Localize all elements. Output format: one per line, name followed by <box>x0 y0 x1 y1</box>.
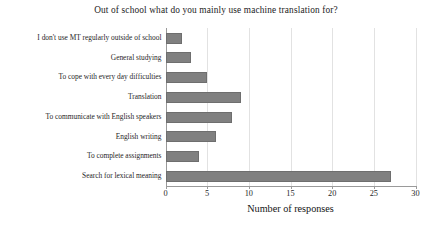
category-label: General studying <box>5 53 166 62</box>
category-label: To communicate with English speakers <box>5 112 166 121</box>
category-label: To cope with every day difficulties <box>5 72 166 81</box>
category-label: I don't use MT regularly outside of scho… <box>5 33 166 42</box>
category-label: English writing <box>5 132 166 141</box>
category-label: Search for lexical meaning <box>5 171 166 180</box>
bar-row <box>166 87 416 107</box>
bar <box>166 72 208 83</box>
x-tick-label: 15 <box>286 189 294 198</box>
bar-row <box>166 68 416 88</box>
bar-row <box>166 147 416 167</box>
bar-row <box>166 107 416 127</box>
bar <box>166 33 183 44</box>
plot-area <box>166 28 416 186</box>
bar <box>166 92 241 103</box>
bar <box>166 52 191 63</box>
x-axis-tick-labels: 051015202530 <box>0 189 432 203</box>
gridline <box>416 28 417 186</box>
bar-row <box>166 28 416 48</box>
category-axis-labels: I don't use MT regularly outside of scho… <box>0 28 166 186</box>
x-tick-label: 10 <box>245 189 253 198</box>
category-label: Translation <box>5 92 166 101</box>
x-tick-label: 5 <box>205 189 209 198</box>
bar <box>166 131 216 142</box>
bar-chart: Out of school what do you mainly use mac… <box>0 0 432 233</box>
x-tick-label: 25 <box>370 189 378 198</box>
bar-row <box>166 166 416 186</box>
bar <box>166 151 199 162</box>
chart-title: Out of school what do you mainly use mac… <box>0 5 432 15</box>
bar <box>166 112 233 123</box>
x-tick-label: 0 <box>163 189 167 198</box>
bar-row <box>166 127 416 147</box>
x-tick-label: 20 <box>328 189 336 198</box>
x-tick-label: 30 <box>411 189 419 198</box>
category-label: To complete assignments <box>5 151 166 160</box>
x-axis-title: Number of responses <box>166 203 416 214</box>
bar-row <box>166 48 416 68</box>
bar <box>166 171 391 182</box>
